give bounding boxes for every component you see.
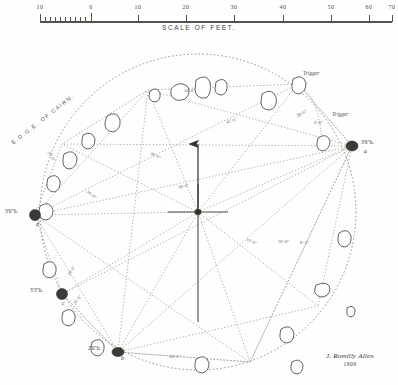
scale-tick-label: 60	[366, 4, 373, 10]
scale-tick-label: 0	[89, 4, 92, 10]
stone-c-id: c	[62, 300, 65, 306]
scale-tick	[369, 15, 370, 22]
measurement-label: 36'-0"	[278, 239, 289, 244]
scale-tick	[331, 15, 332, 22]
scale-bar: 10 0 10 20 30 40 50 60 70 SCALE OF FEET.	[0, 0, 398, 36]
signature-block: J. Romilly Allen 1909	[326, 352, 374, 367]
scale-tick	[392, 15, 393, 22]
scale-tick-label: 20	[183, 4, 190, 10]
stone-d-height: 3'0"h.	[5, 208, 18, 214]
signature-name: J. Romilly Allen	[326, 352, 374, 360]
stone-a-height: 3'6"h.	[361, 139, 374, 145]
measurement-label: 8'-3"	[300, 240, 309, 245]
scale-tick-label: 30	[231, 4, 238, 10]
scale-rule	[40, 21, 392, 23]
stone-a-marker	[346, 141, 358, 151]
rays-from-stone-b	[35, 90, 318, 362]
signature-date: 1909	[326, 361, 374, 367]
scale-tick-label: 40	[280, 4, 287, 10]
scale-tick-label: 70	[389, 4, 396, 10]
measurement-label: 6'-0"	[314, 120, 323, 125]
scale-tick	[138, 15, 139, 22]
stone-b-id: b	[121, 355, 124, 361]
centre-point	[195, 209, 202, 215]
trigger-label-upper: Trigger	[303, 70, 320, 76]
scale-tick	[91, 13, 92, 22]
stone-c-marker	[57, 289, 68, 300]
trigger-label-lower: Trigger	[332, 111, 349, 117]
stone-a-id: a	[364, 148, 367, 154]
plan-drawing: E.D.G.E. OF CAIRN. Trigger Trigger 3'6"h…	[0, 32, 398, 385]
scale-tick-label: 10	[135, 4, 142, 10]
stone-c-height: 3'3"h.	[30, 287, 43, 293]
stone-b-height: 2'0"h.	[88, 345, 101, 351]
stone-d-marker	[30, 210, 41, 221]
marked-stones	[30, 141, 359, 357]
stone-outlines	[39, 77, 355, 374]
scale-title: SCALE OF FEET.	[162, 24, 236, 31]
measurement-label: 34'-0"	[184, 88, 195, 93]
scale-tick	[234, 15, 235, 22]
scale-tick-label: 10	[37, 4, 44, 10]
scale-tick	[186, 15, 187, 22]
stone-d-id: d	[36, 221, 39, 227]
measurement-label: 28'-1"	[169, 354, 180, 359]
scale-tick-label: 50	[328, 4, 335, 10]
survey-sheet: 10 0 10 20 30 40 50 60 70 SCALE OF FEET.	[0, 0, 398, 385]
scale-tick	[283, 15, 284, 22]
